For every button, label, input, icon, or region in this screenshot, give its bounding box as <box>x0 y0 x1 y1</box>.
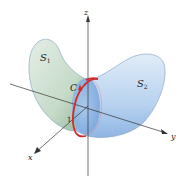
stokes-surfaces-diagram: z y x 1 S1 S2 C <box>0 0 192 187</box>
tick-label-one: 1 <box>67 116 71 124</box>
z-axis-label: z <box>83 8 89 17</box>
y-axis-arrow-icon <box>161 129 168 134</box>
x-axis-label: x <box>28 153 33 162</box>
curve-c-label: C <box>70 83 77 93</box>
y-axis-label: y <box>170 132 176 141</box>
